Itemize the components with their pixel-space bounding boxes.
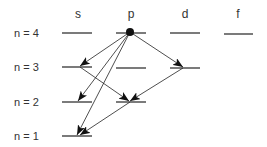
column-header-s: s: [75, 7, 81, 21]
row-label-n2: n = 2: [14, 96, 39, 108]
row-label-n1: n = 1: [14, 130, 39, 142]
principal-quantum-number-labels: n = 4n = 3n = 2n = 1: [14, 27, 39, 142]
arrow-2p-to-1s: [80, 102, 130, 135]
column-header-d: d: [182, 7, 189, 21]
initial-state-dot: [126, 28, 134, 36]
column-header-p: p: [128, 7, 135, 21]
orbital-column-headers: spdf: [75, 7, 240, 21]
row-label-n3: n = 3: [14, 61, 39, 73]
arrow-3s-to-2p: [80, 67, 129, 101]
electron-dot-4p: [126, 28, 134, 36]
arrow-3d-to-2p: [130, 68, 183, 101]
arrow-4p-to-3d: [130, 32, 183, 67]
column-header-f: f: [236, 7, 240, 21]
transition-arrows: [77, 32, 183, 135]
row-label-n4: n = 4: [14, 27, 39, 39]
arrow-4p-to-3s: [80, 32, 130, 66]
energy-level-diagram: spdf n = 4n = 3n = 2n = 1: [0, 0, 267, 147]
